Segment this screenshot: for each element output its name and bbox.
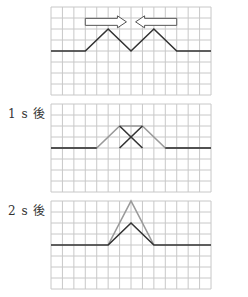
wave-panel-initial — [0, 0, 248, 297]
